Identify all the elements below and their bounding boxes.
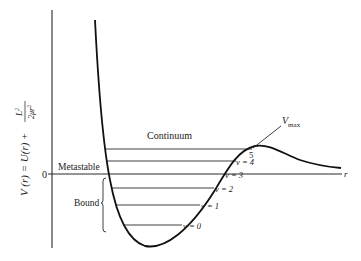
x-axis-label: r xyxy=(344,169,348,179)
svg-text:L2: L2 xyxy=(14,108,24,117)
y-axis-label: V (r) = U(r) + L2 2μr2 xyxy=(14,101,36,196)
level-0-label: v = 0 xyxy=(183,221,202,231)
bound-label: Bound xyxy=(74,198,100,208)
bound-brace xyxy=(101,178,106,232)
potential-curve xyxy=(95,20,341,247)
zero-label: 0 xyxy=(42,169,47,180)
level-2-label: v = 2 xyxy=(215,184,234,194)
vmax-pointer xyxy=(253,126,281,148)
continuum-label: Continuum xyxy=(147,130,192,141)
svg-text:2μr2: 2μr2 xyxy=(26,105,36,119)
level-1-label: v = 1 xyxy=(201,201,219,211)
vmax-label: Vmax xyxy=(282,115,301,129)
level-3-label: v = 3 xyxy=(225,170,243,180)
level-4-label: v = 4 xyxy=(236,157,255,167)
metastable-label: Metastable xyxy=(58,162,100,172)
svg-text:V (r) = U(r) +: V (r) = U(r) + xyxy=(18,132,31,196)
potential-energy-diagram: V (r) = U(r) + L2 2μr2 0 r Vmax Continuu… xyxy=(0,0,361,261)
